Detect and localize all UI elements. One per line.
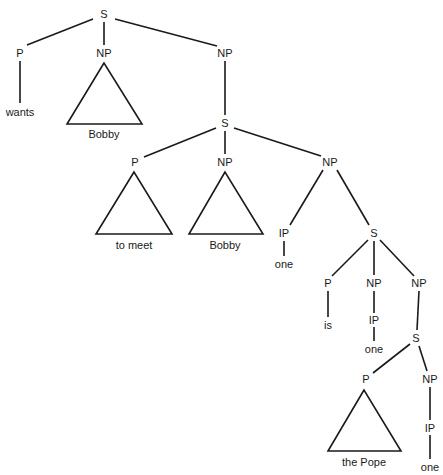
tree-edge (144, 128, 216, 157)
tree-node-w2: one (275, 259, 293, 270)
tree-node-np1: NP (96, 48, 111, 59)
tree-node-w4: one (365, 344, 383, 355)
tree-node-s1: S (100, 9, 107, 20)
tree-node-t4: the Pope (342, 457, 386, 468)
tree-node-ip1: IP (279, 228, 289, 239)
tree-node-w3: is (324, 320, 332, 331)
tree-node-t2: to meet (116, 240, 153, 251)
tree-node-ip3: IP (425, 423, 435, 434)
tree-node-t1: Bobby (88, 129, 119, 140)
tree-edge (115, 19, 217, 46)
tree-node-p1: P (16, 48, 23, 59)
tree-node-np3: NP (217, 157, 232, 168)
subtree-triangle (328, 390, 401, 451)
tree-edge (380, 240, 414, 276)
tree-edge (419, 346, 427, 371)
tree-node-np7: NP (422, 374, 437, 385)
tree-node-ip2: IP (369, 315, 379, 326)
tree-node-p2: P (131, 157, 138, 168)
subtree-triangle (96, 172, 172, 234)
tree-node-np4: NP (322, 157, 337, 168)
tree-node-w5: one (421, 462, 439, 473)
tree-node-np6: NP (411, 278, 426, 289)
tree-node-s2: S (221, 118, 228, 129)
tree-node-p3: P (324, 278, 331, 289)
tree-node-np2: NP (217, 48, 232, 59)
tree-edge (234, 128, 321, 156)
tree-edge (417, 291, 419, 330)
tree-node-np5: NP (366, 278, 381, 289)
subtree-triangle (189, 172, 263, 234)
tree-edge (337, 170, 369, 225)
tree-edge (290, 170, 323, 225)
tree-edge (332, 240, 368, 276)
tree-node-w1: wants (6, 107, 35, 118)
tree-node-t3: Bobby (209, 240, 240, 251)
tree-node-s4: S (412, 333, 419, 344)
tree-edge (27, 19, 93, 45)
subtree-triangle (67, 63, 142, 124)
tree-node-p4: P (362, 374, 369, 385)
tree-node-s3: S (370, 228, 377, 239)
